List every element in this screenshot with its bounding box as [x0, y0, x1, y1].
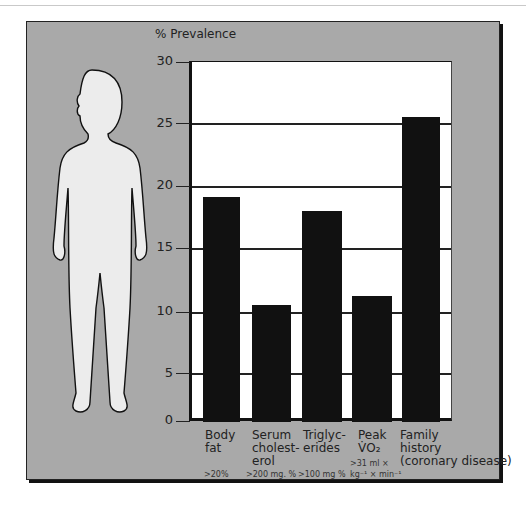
bar-family-history [402, 117, 440, 422]
tick-label-20: 20 [151, 177, 173, 192]
bar-serum-cholesterol [252, 305, 291, 422]
x-label-line: erol [252, 455, 300, 468]
tick-label-15: 15 [151, 239, 173, 254]
bar-body-fat [203, 197, 240, 422]
criterion-peak-vo2-line1: >31 ml × [350, 459, 389, 469]
x-label-line: erides [303, 442, 346, 455]
x-label-line: fat [205, 442, 235, 455]
tick-label-25: 25 [151, 115, 173, 130]
tick-10 [176, 312, 190, 313]
x-label-family-history: Family history (coronary disease) [400, 429, 512, 468]
bar-triglycerides [302, 211, 342, 422]
top-rule [0, 5, 526, 6]
tick-20 [176, 186, 190, 187]
y-axis-title: % Prevalence [155, 27, 236, 41]
tick-5 [176, 373, 190, 374]
x-label-line: (coronary disease) [400, 455, 512, 468]
tick-25 [176, 123, 190, 124]
tick-label-5: 5 [151, 365, 173, 380]
child-silhouette-icon [40, 68, 150, 426]
x-label-peak-vo2: Peak V̇O₂ [358, 429, 387, 455]
criterion-peak-vo2-line2: kg⁻¹ × min⁻¹ [350, 470, 401, 480]
x-label-serum-cholesterol: Serum cholest- erol [252, 429, 300, 468]
tick-30 [176, 62, 190, 63]
x-label-triglycerides: Triglyc- erides [303, 429, 346, 455]
criterion-body-fat: >20% [204, 470, 228, 480]
criterion-serum-cholesterol: >200 mg. % [246, 470, 296, 480]
criterion-triglycerides: >100 mg % [298, 470, 346, 480]
tick-label-0: 0 [151, 412, 173, 427]
x-label-body-fat: Body fat [205, 429, 235, 455]
tick-label-30: 30 [151, 53, 173, 68]
tick-label-10: 10 [151, 303, 173, 318]
x-label-line: V̇O₂ [358, 442, 387, 455]
tick-15 [176, 248, 190, 249]
bar-peak-vo2 [352, 296, 392, 422]
tick-0 [176, 421, 190, 422]
